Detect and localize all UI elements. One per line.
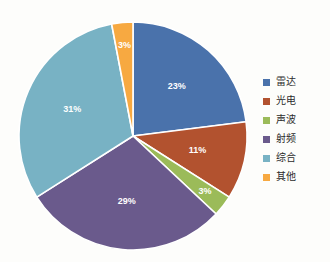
legend-item[interactable]: 光电 <box>263 95 329 107</box>
pie-slice-label: 29% <box>118 196 136 206</box>
pie-slice-label: 31% <box>63 104 81 114</box>
legend-color-swatch <box>263 79 270 86</box>
legend-color-swatch <box>263 136 270 143</box>
legend-item-label: 声波 <box>276 114 296 126</box>
legend-color-swatch <box>263 174 270 181</box>
pie-slice-label: 3% <box>199 186 212 196</box>
legend-color-swatch <box>263 117 270 124</box>
legend-item[interactable]: 其他 <box>263 171 329 183</box>
legend-color-swatch <box>263 155 270 162</box>
pie-chart-svg: 23%11%3%29%31%3% <box>0 0 260 262</box>
legend-item[interactable]: 射频 <box>263 133 329 145</box>
pie-chart-screenshot: 23%11%3%29%31%3% 雷达光电声波射频综合其他 <box>0 0 330 262</box>
legend-item[interactable]: 综合 <box>263 152 329 164</box>
pie-slice-label: 3% <box>118 40 131 50</box>
legend-item-label: 其他 <box>276 171 296 183</box>
pie-slice-group <box>19 22 247 250</box>
legend-item[interactable]: 雷达 <box>263 76 329 88</box>
legend-item[interactable]: 声波 <box>263 114 329 126</box>
legend-item-label: 射频 <box>276 133 296 145</box>
pie-slice[interactable] <box>133 22 246 136</box>
chart-plot-area: 23%11%3%29%31%3% <box>0 0 260 262</box>
legend-item-label: 雷达 <box>276 76 296 88</box>
chart-legend: 雷达光电声波射频综合其他 <box>263 76 329 183</box>
legend-color-swatch <box>263 98 270 105</box>
legend-item-label: 综合 <box>276 152 296 164</box>
pie-slice-label: 11% <box>189 145 207 155</box>
pie-slice-label: 23% <box>168 81 186 91</box>
legend-item-label: 光电 <box>276 95 296 107</box>
